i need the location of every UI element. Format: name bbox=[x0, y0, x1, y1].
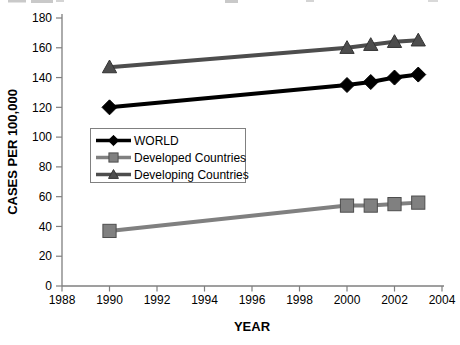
legend-label: Developed Countries bbox=[134, 151, 246, 165]
x-axis-title: YEAR bbox=[234, 319, 271, 334]
y-axis-title: CASES PER 100,000 bbox=[5, 89, 20, 215]
data-point-diamond bbox=[102, 100, 117, 115]
y-tick-label: 20 bbox=[39, 249, 53, 263]
x-tick-label: 1988 bbox=[49, 293, 76, 307]
y-tick-label: 140 bbox=[32, 71, 52, 85]
cropped-title-remnants bbox=[8, 0, 438, 3]
data-point-diamond bbox=[340, 78, 355, 93]
y-tick-label: 100 bbox=[32, 130, 52, 144]
y-tick-label: 80 bbox=[39, 160, 53, 174]
data-point-diamond bbox=[363, 75, 378, 90]
y-tick-label: 180 bbox=[32, 11, 52, 25]
x-tick-label: 1994 bbox=[191, 293, 218, 307]
y-tick-label: 160 bbox=[32, 41, 52, 55]
x-tick-label: 1996 bbox=[239, 293, 266, 307]
tb-incidence-line-chart: CASES PER 100,000 YEAR 02040608010012014… bbox=[0, 0, 460, 345]
legend-label: WORLD bbox=[134, 134, 179, 148]
data-point-square bbox=[103, 224, 116, 237]
data-point-diamond bbox=[411, 67, 426, 82]
x-tick-label: 2002 bbox=[381, 293, 408, 307]
y-tick-label: 0 bbox=[45, 279, 52, 293]
y-tick-label: 120 bbox=[32, 101, 52, 115]
x-tick-label: 2004 bbox=[429, 293, 456, 307]
data-point-square bbox=[364, 199, 377, 212]
data-point-diamond bbox=[387, 70, 402, 85]
x-tick-label: 2000 bbox=[334, 293, 361, 307]
x-tick-label: 1990 bbox=[96, 293, 123, 307]
legend: WORLDDeveloped CountriesDeveloping Count… bbox=[91, 129, 249, 183]
data-point-square bbox=[388, 198, 401, 211]
x-tick-label: 1992 bbox=[144, 293, 171, 307]
legend-label: Developing Countries bbox=[134, 168, 249, 182]
y-tick-label: 60 bbox=[39, 190, 53, 204]
chart-page: CASES PER 100,000 YEAR 02040608010012014… bbox=[0, 0, 460, 345]
legend-marker-square bbox=[109, 153, 118, 162]
y-tick-label: 40 bbox=[39, 220, 53, 234]
data-point-square bbox=[412, 196, 425, 209]
data-point-square bbox=[340, 199, 353, 212]
x-tick-label: 1998 bbox=[286, 293, 313, 307]
